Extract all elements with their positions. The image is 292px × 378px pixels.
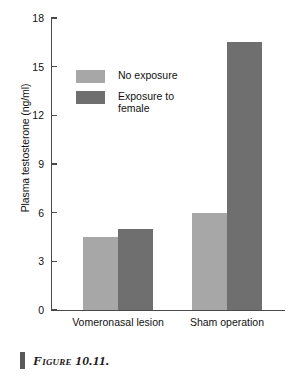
bar — [118, 229, 153, 310]
legend-item-no-exposure: No exposure — [76, 69, 256, 83]
y-axis-tick-label: 12 — [18, 110, 44, 120]
legend-item-exposure-to-female: Exposure to female — [76, 90, 256, 115]
legend-label-no-exposure: No exposure — [118, 69, 178, 81]
figure-caption-text: Figure 10.11. — [33, 353, 110, 369]
y-axis-tick-label: 18 — [18, 13, 44, 23]
figure-caption: Figure 10.11. — [20, 352, 110, 369]
legend-swatch-icon-exposure-to-female — [76, 91, 105, 104]
y-axis-tick-label: 3 — [18, 256, 44, 266]
y-axis-tick-label: 9 — [18, 159, 44, 169]
y-axis-tick-label: 0 — [18, 305, 44, 315]
bars-layer — [52, 18, 285, 310]
x-axis-category-label-2: Sham operation — [172, 316, 282, 329]
x-axis-line — [51, 310, 285, 311]
figure-container: Plasma testosterone (ng/ml) 0369121518 V… — [0, 0, 292, 378]
legend-swatch-icon-no-exposure — [76, 70, 105, 83]
caption-bar-marker-icon — [20, 352, 25, 369]
legend-label-exposure-to-female: Exposure to female — [118, 90, 174, 115]
x-axis-category-label-1: Vomeronasal lesion — [63, 316, 173, 329]
bar — [83, 237, 118, 310]
chart-legend: No exposure Exposure to female — [76, 69, 256, 122]
bar — [192, 213, 227, 310]
y-axis-tick-label: 15 — [18, 62, 44, 72]
y-axis-tick-label: 6 — [18, 208, 44, 218]
